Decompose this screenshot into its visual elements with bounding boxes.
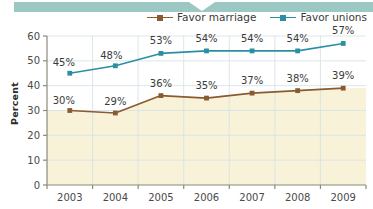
data-point-marker[interactable] bbox=[341, 86, 346, 91]
x-tick-label: 2003 bbox=[57, 192, 82, 203]
data-label: 37% bbox=[241, 75, 263, 86]
data-label: 45% bbox=[53, 57, 75, 68]
y-axis-title: Percent bbox=[9, 74, 20, 134]
y-tick-label: 50 bbox=[27, 55, 40, 66]
data-point-marker[interactable] bbox=[113, 111, 118, 116]
data-point-marker[interactable] bbox=[67, 71, 72, 76]
x-tick-label: 2006 bbox=[194, 192, 219, 203]
data-label: 35% bbox=[195, 80, 217, 91]
line-chart-svg: 0102030405060 20032004200520062007200820… bbox=[0, 0, 373, 209]
data-label: 48% bbox=[100, 50, 122, 61]
data-point-marker[interactable] bbox=[159, 51, 164, 56]
y-tick-label: 10 bbox=[27, 155, 40, 166]
y-tick-label: 60 bbox=[27, 31, 40, 42]
x-tick-labels: 2003200420052006200720082009 bbox=[57, 192, 356, 203]
data-label: 29% bbox=[104, 96, 126, 107]
x-tick-label: 2007 bbox=[239, 192, 264, 203]
data-point-marker[interactable] bbox=[250, 49, 255, 54]
y-tick-label: 30 bbox=[27, 105, 40, 116]
data-point-marker[interactable] bbox=[341, 41, 346, 46]
data-label: 36% bbox=[150, 78, 172, 89]
y-tick-label: 0 bbox=[34, 180, 40, 191]
x-tick-label: 2004 bbox=[103, 192, 128, 203]
data-label: 54% bbox=[195, 33, 217, 44]
y-tick-label: 20 bbox=[27, 130, 40, 141]
data-label: 53% bbox=[150, 35, 172, 46]
data-label: 30% bbox=[53, 95, 75, 106]
x-tick-label: 2009 bbox=[330, 192, 355, 203]
data-point-marker[interactable] bbox=[113, 63, 118, 68]
data-point-marker[interactable] bbox=[250, 91, 255, 96]
plot-area: Percent 0102030405060 200320042005200620… bbox=[0, 0, 373, 209]
y-tick-label: 40 bbox=[27, 80, 40, 91]
data-point-marker[interactable] bbox=[159, 93, 164, 98]
data-label: 57% bbox=[332, 25, 354, 36]
data-point-marker[interactable] bbox=[204, 49, 209, 54]
data-label: 54% bbox=[287, 33, 309, 44]
data-label: 54% bbox=[241, 33, 263, 44]
data-label: 39% bbox=[332, 70, 354, 81]
x-tick-label: 2008 bbox=[285, 192, 310, 203]
data-label: 38% bbox=[287, 73, 309, 84]
data-point-marker[interactable] bbox=[204, 96, 209, 101]
chart-page: Favor marriage Favor unions Percent 0102… bbox=[0, 0, 373, 209]
data-point-marker[interactable] bbox=[295, 88, 300, 93]
y-tick-labels: 0102030405060 bbox=[27, 31, 40, 191]
data-point-marker[interactable] bbox=[295, 49, 300, 54]
x-tick-label: 2005 bbox=[148, 192, 173, 203]
data-point-marker[interactable] bbox=[67, 108, 72, 113]
